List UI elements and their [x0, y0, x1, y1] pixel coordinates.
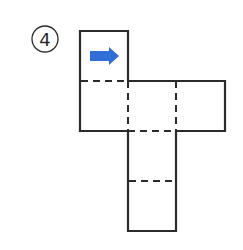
arrow-right-icon [90, 47, 119, 65]
problem-number-text: 4 [39, 29, 50, 50]
problem-number: 4 [32, 26, 58, 52]
cube-net-diagram: 4 [0, 0, 243, 250]
